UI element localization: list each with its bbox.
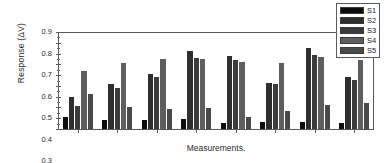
legend-item[interactable]: S3: [340, 26, 376, 35]
axis-top: [58, 32, 374, 33]
bar: [63, 117, 68, 129]
bar: [306, 48, 311, 129]
x-tick: [78, 129, 79, 133]
bar: [115, 88, 120, 129]
y-tick: 0.2: [56, 107, 61, 108]
bar: [181, 119, 186, 129]
y-tick-minor: [57, 91, 60, 92]
bar: [187, 51, 192, 129]
chart-legend: S1S2S3S4S5: [336, 3, 380, 58]
y-tick-minor: [57, 37, 60, 38]
bar: [148, 74, 153, 129]
bar: [345, 77, 350, 129]
bar: [318, 57, 323, 129]
x-tick: [117, 129, 118, 133]
bar: [81, 71, 86, 129]
y-tick-minor: [57, 59, 60, 60]
y-axis-title: Response (ΔV): [16, 8, 26, 98]
bar: [121, 63, 126, 129]
legend-label: S1: [367, 7, 376, 15]
bar: [312, 55, 317, 129]
y-tick-label: 0.9: [42, 28, 52, 36]
y-tick-minor: [57, 102, 60, 103]
bar: [154, 77, 159, 129]
legend-swatch-icon: [340, 27, 364, 34]
bar: [239, 62, 244, 129]
legend-label: S2: [367, 17, 376, 25]
y-tick: 0.1: [56, 118, 61, 119]
bar: [246, 117, 251, 129]
y-tick: 0.3: [56, 97, 61, 98]
y-tick-minor: [57, 113, 60, 114]
bar: [325, 105, 330, 129]
y-tick-label: 0.8: [42, 50, 52, 58]
y-tick-minor: [57, 81, 60, 82]
bar: [167, 109, 172, 129]
legend-swatch-icon: [340, 47, 364, 54]
x-tick: [275, 129, 276, 133]
bar: [364, 103, 369, 129]
bar-chart-figure: Response (ΔV) 0.00.10.20.30.40.50.60.70.…: [0, 0, 392, 163]
bar: [200, 59, 205, 129]
x-tick: [236, 129, 237, 133]
legend-label: S3: [367, 27, 376, 35]
bar: [358, 60, 363, 129]
legend-item[interactable]: S5: [340, 46, 376, 55]
plot-area: 0.00.10.20.30.40.50.60.70.80.9: [58, 32, 374, 130]
bar: [88, 94, 93, 129]
y-tick-minor: [57, 70, 60, 71]
y-tick: 0.7: [56, 54, 61, 55]
bar: [127, 107, 132, 129]
legend-item[interactable]: S1: [340, 6, 376, 15]
bar: [142, 120, 147, 129]
legend-swatch-icon: [340, 17, 364, 24]
bar: [260, 122, 265, 129]
bar: [285, 111, 290, 129]
y-tick: 0.5: [56, 75, 61, 76]
bar: [160, 59, 165, 129]
legend-label: S5: [367, 47, 376, 55]
y-tick-minor: [57, 48, 60, 49]
y-tick-label: 0.4: [42, 136, 52, 144]
x-axis-title: Measurements.: [58, 143, 374, 153]
bar: [69, 97, 74, 129]
legend-item[interactable]: S2: [340, 16, 376, 25]
bar: [339, 123, 344, 129]
y-tick: 0.8: [56, 43, 61, 44]
y-tick-label: 0.5: [42, 114, 52, 122]
bar: [221, 123, 226, 129]
legend-item[interactable]: S4: [340, 36, 376, 45]
bar: [279, 63, 284, 129]
y-tick-label: 0.6: [42, 93, 52, 101]
bar: [227, 56, 232, 129]
bar: [300, 122, 305, 129]
y-tick-label: 0.7: [42, 71, 52, 79]
axis-bottom: [58, 129, 374, 130]
bar: [233, 60, 238, 129]
bar: [352, 80, 357, 129]
x-tick: [196, 129, 197, 133]
y-tick: 0.6: [56, 64, 61, 65]
y-tick: 0.4: [56, 86, 61, 87]
y-tick-label: 0.3: [42, 158, 52, 163]
bar: [266, 83, 271, 129]
legend-label: S4: [367, 37, 376, 45]
bar: [102, 120, 107, 129]
x-tick: [157, 129, 158, 133]
y-tick-minor: [57, 124, 60, 125]
y-tick: 0.0: [56, 129, 61, 130]
legend-swatch-icon: [340, 7, 364, 14]
x-tick: [354, 129, 355, 133]
y-tick: 0.9: [56, 32, 61, 33]
bar: [194, 58, 199, 129]
x-tick: [315, 129, 316, 133]
bar: [273, 84, 278, 129]
bar: [108, 84, 113, 129]
legend-swatch-icon: [340, 37, 364, 44]
bar: [75, 106, 80, 129]
bar: [206, 108, 211, 129]
